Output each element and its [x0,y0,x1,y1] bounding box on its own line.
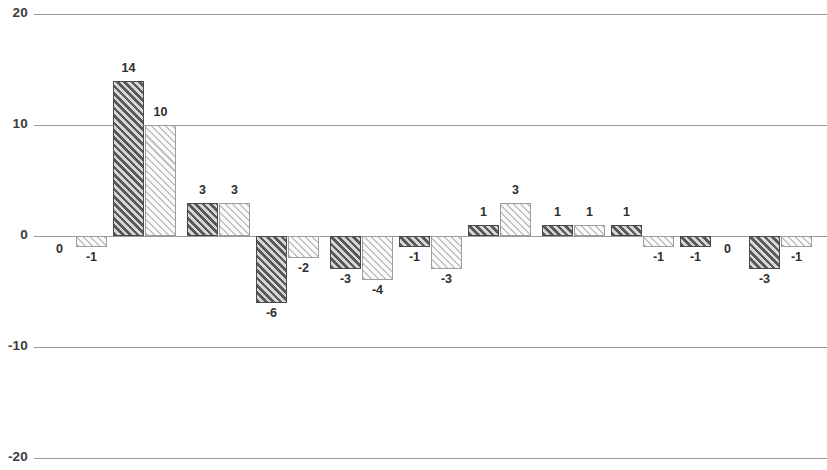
bar [574,225,605,236]
bar-value-label: -1 [389,250,440,264]
gridline-neg10 [34,347,827,348]
bar [643,236,674,247]
bar-chart: 20100-10-20 0-1141033-6-2-3-4-1-313111-1… [0,0,827,470]
bar-value-label: -4 [352,283,403,297]
bar [145,125,176,236]
bar-value-label: 10 [135,105,186,119]
bar-value-label: 0 [702,242,753,256]
gridline-20 [34,14,827,15]
bar [399,236,430,247]
bar-value-label: 1 [458,205,509,219]
bar [468,225,499,236]
bar-value-label: 1 [601,205,652,219]
y-tick-label: 10 [0,116,28,131]
bar [288,236,319,258]
bar [330,236,361,269]
bar-value-label: 14 [103,61,154,75]
y-tick-label: 0 [0,227,28,242]
bar [219,203,250,236]
bar [113,81,144,236]
bar-value-label: -3 [739,272,790,286]
bar-value-label: -1 [66,250,117,264]
bar-value-label: 3 [209,183,260,197]
y-tick-label: -10 [0,338,28,353]
bar [611,225,642,236]
y-tick-label: -20 [0,449,28,464]
bar-value-label: -3 [421,272,472,286]
plot-area: 20100-10-20 0-1141033-6-2-3-4-1-313111-1… [0,0,827,470]
bar [187,203,218,236]
bar-value-label: -6 [246,306,297,320]
y-tick-label: 20 [0,5,28,20]
bar [542,225,573,236]
bar-value-label: 3 [490,183,541,197]
bar-value-label: -1 [771,250,822,264]
bar [781,236,812,247]
gridline-neg20 [34,458,827,459]
